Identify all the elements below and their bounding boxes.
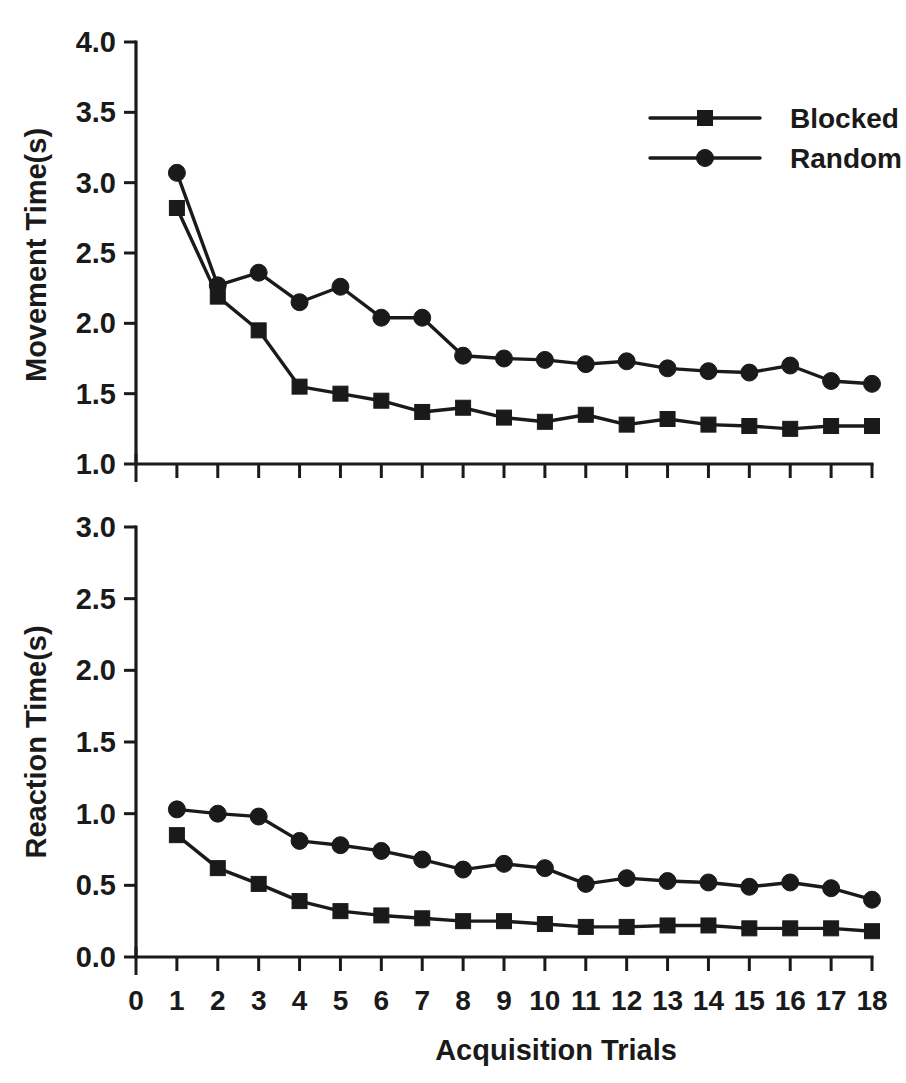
data-point-blocked [578,919,593,934]
data-point-blocked [865,924,880,939]
data-point-random [373,842,390,859]
legend-marker-square [698,111,713,126]
y-tick-label: 1.5 [76,378,116,410]
chart-legend: BlockedRandom [650,103,902,174]
x-tick-label: 11 [571,985,601,1016]
x-tick-label: 3 [251,985,267,1016]
data-point-blocked [660,918,675,933]
x-tick-label: 13 [652,985,683,1016]
axis-spine [136,527,872,957]
x-axis-title: Acquisition Trials [435,1034,677,1066]
x-tick-label: 14 [693,985,725,1016]
data-point-random [168,801,185,818]
data-point-random [536,860,553,877]
x-axis-tick-labels: 0123456789101112131415161718 [128,985,887,1016]
data-point-random [618,870,635,887]
data-point-blocked [374,393,389,408]
x-tick-label: 5 [333,985,349,1016]
x-tick-label: 0 [128,985,144,1016]
data-point-random [332,278,349,295]
data-point-blocked [251,323,266,338]
data-point-random [414,309,431,326]
data-point-blocked [578,407,593,422]
data-point-random [864,375,881,392]
data-point-blocked [824,419,839,434]
data-point-random [864,891,881,908]
data-point-random [455,861,472,878]
data-point-random [250,808,267,825]
data-point-blocked [824,921,839,936]
data-point-random [741,878,758,895]
y-tick-label: 0.0 [76,941,116,973]
y-tick-label: 3.0 [76,167,116,199]
data-point-blocked [456,400,471,415]
data-point-random [823,373,840,390]
data-point-random [332,837,349,854]
data-point-blocked [619,919,634,934]
data-point-blocked [292,894,307,909]
series-line-random [177,173,872,384]
lower-panel-y-tick-labels: 0.00.51.01.52.02.53.0 [76,511,116,973]
data-point-random [168,164,185,181]
upper-panel: 1.01.52.02.53.03.54.0 Movement Time(s) [20,26,881,482]
data-point-blocked [701,918,716,933]
data-point-random [496,855,513,872]
x-tick-label: 4 [292,985,308,1016]
data-point-blocked [210,861,225,876]
data-point-blocked [619,417,634,432]
data-point-blocked [415,404,430,419]
data-point-blocked [333,904,348,919]
data-point-random [700,363,717,380]
lower-panel-axes [124,527,872,975]
lower-panel: 0.00.51.01.52.02.53.0 012345678910111213… [20,511,888,1066]
data-point-random [782,357,799,374]
data-point-blocked [537,917,552,932]
data-point-random [291,294,308,311]
data-point-blocked [497,410,512,425]
data-point-random [209,805,226,822]
figure-container: 1.01.52.02.53.03.54.0 Movement Time(s) B… [0,0,906,1083]
y-tick-label: 1.5 [76,726,116,758]
data-point-random [496,350,513,367]
data-point-random [250,264,267,281]
data-point-blocked [497,914,512,929]
data-point-random [577,356,594,373]
legend-label: Blocked [790,103,899,134]
y-tick-label: 3.0 [76,511,116,543]
x-tick-label: 2 [210,985,226,1016]
y-tick-label: 2.5 [76,583,116,615]
data-point-random [659,360,676,377]
data-point-blocked [169,828,184,843]
data-point-blocked [251,876,266,891]
y-tick-label: 2.5 [76,237,116,269]
axis-spine [136,42,872,464]
data-point-random [782,874,799,891]
data-point-blocked [456,914,471,929]
y-tick-label: 3.5 [76,96,116,128]
x-tick-label: 8 [455,985,471,1016]
lower-panel-series [168,801,880,939]
upper-panel-y-axis-title: Movement Time(s) [20,128,52,382]
data-point-blocked [415,911,430,926]
y-tick-label: 0.5 [76,869,116,901]
data-point-blocked [333,386,348,401]
x-tick-label: 9 [496,985,512,1016]
x-tick-label: 18 [856,985,887,1016]
data-point-random [209,277,226,294]
data-point-random [700,874,717,891]
x-tick-label: 10 [529,985,560,1016]
data-point-random [414,851,431,868]
data-point-blocked [865,419,880,434]
x-tick-label: 6 [374,985,390,1016]
upper-panel-y-tick-labels: 1.01.52.02.53.03.54.0 [76,26,116,480]
data-point-random [577,875,594,892]
y-tick-label: 2.0 [76,307,116,339]
x-tick-label: 1 [169,985,185,1016]
data-point-blocked [374,908,389,923]
data-point-random [823,880,840,897]
data-point-blocked [742,419,757,434]
series-line-random [177,809,872,899]
x-tick-label: 15 [734,985,765,1016]
data-point-blocked [169,200,184,215]
data-point-random [291,832,308,849]
